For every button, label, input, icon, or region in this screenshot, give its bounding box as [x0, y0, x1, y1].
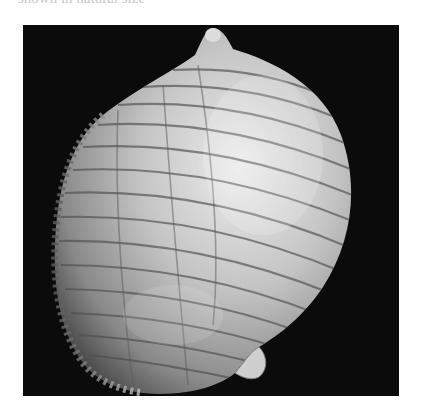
caption-fragment: shown in natural size [18, 0, 145, 5]
shell-illustration [23, 25, 399, 396]
truncated-caption-line: shown in natural size [0, 0, 421, 5]
shell-photograph [23, 25, 399, 396]
shell-apex [205, 28, 221, 42]
